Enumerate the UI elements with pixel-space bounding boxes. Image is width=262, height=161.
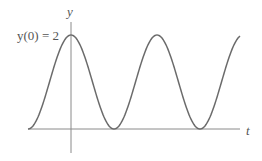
plot-area [0, 0, 262, 161]
y-axis-label: y [67, 5, 73, 18]
initial-value-annotation: y(0) = 2 [17, 29, 59, 42]
x-axis-label: t [246, 124, 250, 137]
cosine-curve [28, 35, 240, 129]
